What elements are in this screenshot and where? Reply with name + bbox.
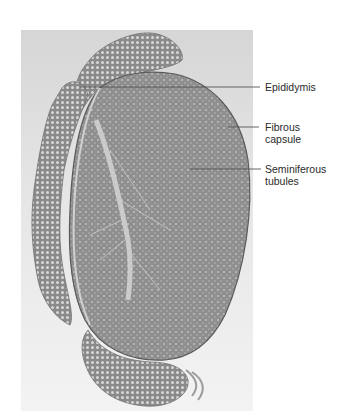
testis-micrograph xyxy=(0,0,343,419)
micrograph-figure: Epididymis Fibrous capsule Seminiferous … xyxy=(0,0,343,419)
label-seminiferous-tubules: Seminiferous tubules xyxy=(265,163,326,187)
label-fibrous-capsule: Fibrous capsule xyxy=(265,121,301,145)
testis xyxy=(69,72,249,360)
label-epididymis: Epididymis xyxy=(265,81,316,93)
